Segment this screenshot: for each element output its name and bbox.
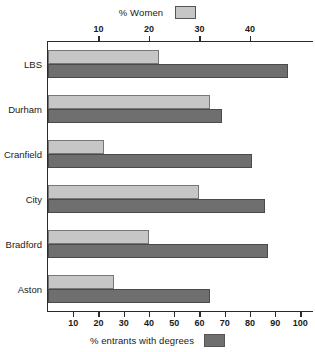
category-label-bradford: Bradford [0, 238, 42, 249]
legend-bottom-label: % entrants with degrees [90, 335, 194, 346]
bottom-axis-tick-label: 90 [270, 318, 280, 328]
bar-women [48, 230, 149, 244]
bar-degrees [48, 199, 265, 213]
bottom-axis-tick-label: 30 [119, 318, 129, 328]
top-axis-tick-label: 40 [245, 24, 255, 34]
bottom-axis-tick [124, 312, 125, 317]
bar-women [48, 275, 114, 289]
legend-top: % Women [0, 6, 315, 19]
bottom-axis-tick-label: 60 [194, 318, 204, 328]
bottom-axis-tick [73, 312, 74, 317]
category-label-cranfield: Cranfield [0, 149, 42, 160]
bottom-axis-tick [199, 312, 200, 317]
light-gray-swatch-icon [175, 6, 196, 19]
bottom-axis-tick-label: 80 [245, 318, 255, 328]
bar-chart: % Women 10203040102030405060708090100LBS… [0, 0, 315, 352]
legend-bottom: % entrants with degrees [0, 334, 315, 347]
bottom-axis-tick [225, 312, 226, 317]
top-axis-tick-label: 30 [194, 24, 204, 34]
bottom-axis-tick [149, 312, 150, 317]
bar-degrees [48, 244, 268, 258]
bottom-axis-tick-label: 50 [169, 318, 179, 328]
bottom-axis-tick-label: 40 [144, 318, 154, 328]
top-axis-tick-label: 20 [144, 24, 154, 34]
bottom-axis-tick-label: 20 [93, 318, 103, 328]
left-axis-line [47, 41, 48, 312]
category-label-durham: Durham [0, 104, 42, 115]
bar-degrees [48, 109, 222, 123]
bar-degrees [48, 154, 252, 168]
bottom-axis-tick-label: 10 [68, 318, 78, 328]
top-axis-tick [199, 36, 200, 41]
bar-women [48, 50, 159, 64]
bar-degrees [48, 289, 210, 303]
category-label-lbs: LBS [0, 59, 42, 70]
dark-gray-swatch-icon [204, 334, 225, 347]
category-label-city: City [0, 193, 42, 204]
legend-top-label: % Women [119, 7, 163, 18]
bottom-axis-tick-label: 100 [293, 318, 308, 328]
bottom-axis-tick-label: 70 [220, 318, 230, 328]
category-label-aston: Aston [0, 283, 42, 294]
bottom-axis-tick [174, 312, 175, 317]
bar-degrees [48, 64, 288, 78]
top-axis-tick [250, 36, 251, 41]
bar-women [48, 140, 104, 154]
bar-women [48, 95, 210, 109]
bottom-axis-tick [250, 312, 251, 317]
bottom-axis-tick [98, 312, 99, 317]
bottom-axis-tick [275, 312, 276, 317]
top-axis-tick [149, 36, 150, 41]
top-axis-line [47, 41, 313, 42]
top-axis-tick [98, 36, 99, 41]
bottom-axis-line [47, 311, 313, 312]
bottom-axis-tick [300, 312, 301, 317]
bar-women [48, 185, 199, 199]
top-axis-tick-label: 10 [93, 24, 103, 34]
